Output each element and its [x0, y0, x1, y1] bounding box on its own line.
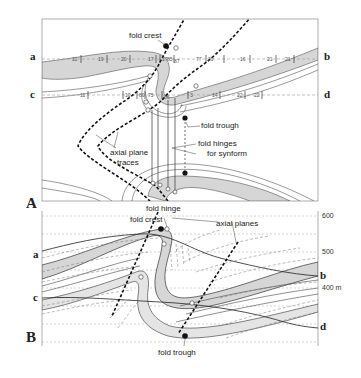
- endpoint-a-top: a: [30, 50, 36, 62]
- label-fold-hinges-1: fold hinges: [198, 139, 237, 148]
- fold-diagram: 11 19 20 17 17 85 87 77 20 16 21 21 11 1…: [0, 0, 361, 378]
- dip-reading: 19: [98, 56, 104, 62]
- dip-reading: 86: [164, 94, 170, 100]
- endpoint-c-top: c: [30, 88, 35, 100]
- endpoint-d-bottom: d: [320, 320, 326, 332]
- dip-reading: 75: [148, 92, 154, 98]
- endpoint-c-bottom: c: [33, 291, 38, 303]
- fold-trough-point-b: [182, 333, 188, 339]
- label-fold-trough-b: fold trough: [158, 348, 196, 357]
- dip-reading: 22: [237, 92, 243, 98]
- dip-reading: 17: [148, 56, 154, 62]
- label-fold-hinges-2: for synform: [207, 149, 247, 158]
- dip-reading: 11: [72, 56, 77, 62]
- label-fold-crest: fold crest: [129, 31, 162, 40]
- leader-fold-hinge-b: [164, 218, 167, 227]
- dip-reading: 80: [139, 92, 145, 98]
- fold-trough-point-lower: [182, 170, 187, 175]
- dip-reading: 20: [121, 56, 127, 62]
- leader-fold-trough-b: [184, 339, 185, 346]
- elevation-label-400: 400 m: [322, 284, 342, 291]
- dip-reading: 85: [167, 56, 173, 62]
- elevation-label-500: 500: [322, 248, 334, 255]
- label-axial-planes: axial planes: [216, 219, 258, 228]
- label-fold-crest-b: fold crest: [130, 215, 163, 224]
- dip-reading: 11: [80, 92, 85, 98]
- panel-b-label: B: [26, 329, 36, 345]
- elevation-label-600: 600: [322, 212, 334, 219]
- panel-b: fold hinge fold crest axial planes fold …: [26, 204, 342, 357]
- fold-trough-point: [182, 115, 187, 120]
- dip-reading: 21: [267, 56, 273, 62]
- label-fold-hinge: fold hinge: [146, 204, 181, 213]
- dip-reading: 21: [285, 56, 291, 62]
- dip-reading: 87: [174, 58, 180, 64]
- fold-crest-point-b: [158, 226, 164, 232]
- dip-reading: 20: [208, 56, 214, 62]
- endpoint-b-bottom: b: [320, 269, 326, 281]
- dip-reading: 77: [196, 56, 202, 62]
- label-axial-plane-traces-2: traces: [117, 158, 139, 167]
- endpoint-a-bottom: a: [33, 248, 39, 260]
- dip-reading: 16: [240, 56, 246, 62]
- dip-reading: 22: [254, 92, 260, 98]
- panel-a-frame: [42, 19, 318, 201]
- label-axial-plane-traces-1: axial plane: [110, 148, 149, 157]
- panel-a: 11 19 20 17 17 85 87 77 20 16 21 21 11 1…: [26, 16, 330, 211]
- endpoint-d-top: d: [324, 88, 330, 100]
- label-fold-trough: fold trough: [201, 121, 239, 130]
- dip-reading: 10: [125, 92, 131, 98]
- panel-a-label: A: [26, 195, 37, 211]
- endpoint-b-top: b: [324, 50, 330, 62]
- dip-reading: 3: [190, 92, 193, 98]
- dip-reading: 14: [212, 92, 218, 98]
